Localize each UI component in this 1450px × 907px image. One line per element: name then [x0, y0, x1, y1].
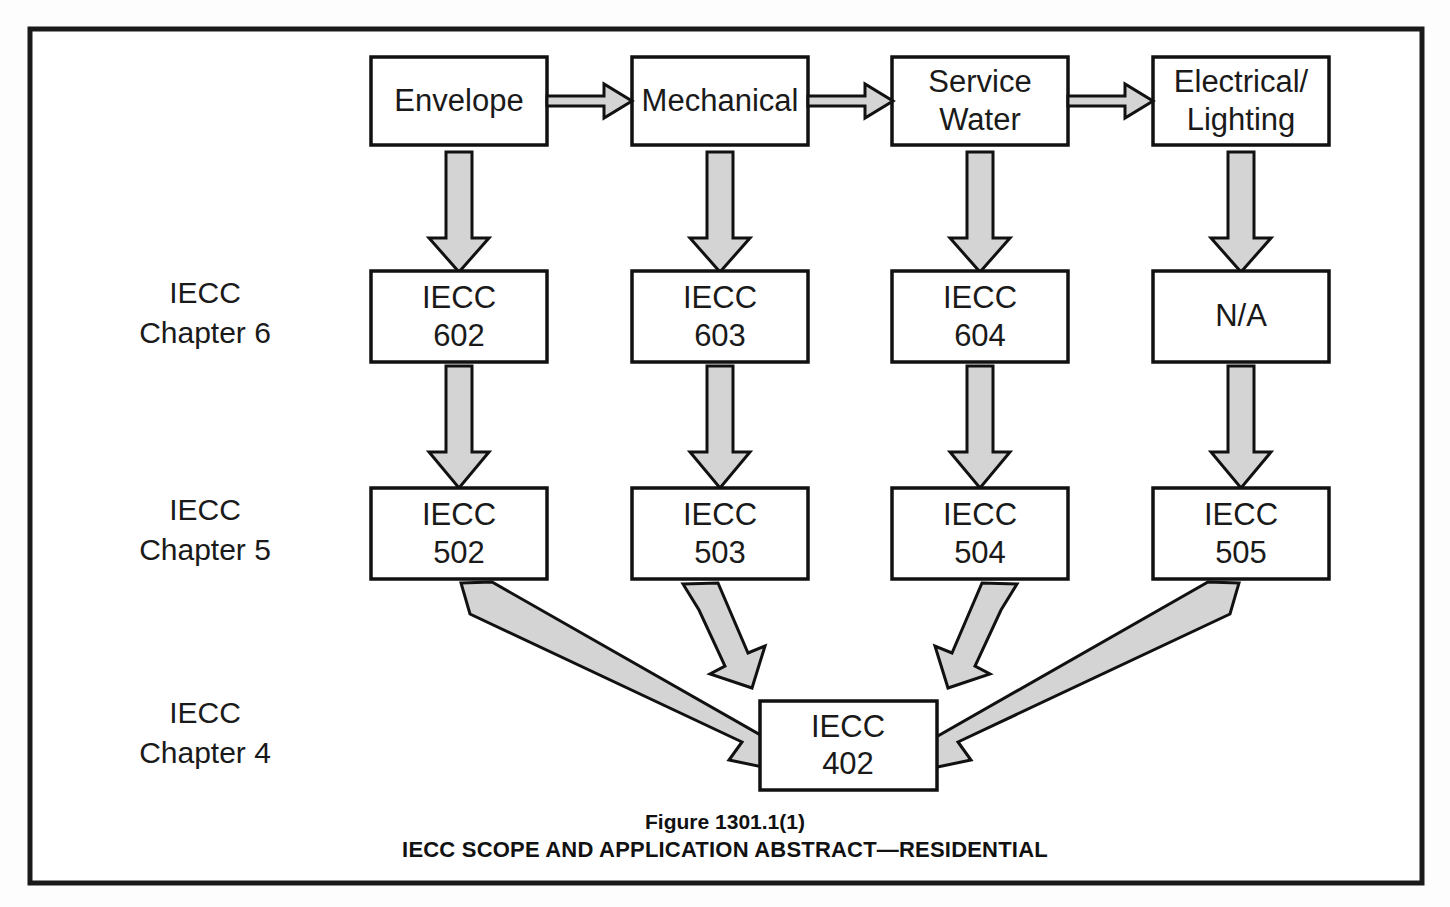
figure-caption-number: Figure 1301.1(1): [645, 810, 805, 833]
node-iecc-603-label-line1: IECC: [683, 280, 757, 315]
node-service-water-label-line2: Water: [939, 102, 1021, 137]
node-iecc-502-label-line1: IECC: [422, 497, 496, 532]
node-na[interactable]: N/A: [1153, 271, 1329, 362]
node-iecc-602[interactable]: IECC 602: [371, 271, 547, 362]
row-label-chapter-5-line2: Chapter 5: [139, 533, 271, 566]
row-label-chapter-4-line2: Chapter 4: [139, 736, 271, 769]
node-iecc-603[interactable]: IECC 603: [632, 271, 808, 362]
node-iecc-504[interactable]: IECC 504: [892, 488, 1068, 579]
node-iecc-503-label-line1: IECC: [683, 497, 757, 532]
row-label-chapter-5-line1: IECC: [169, 493, 241, 526]
node-envelope[interactable]: Envelope: [371, 57, 547, 145]
node-iecc-402-label-line2: 402: [822, 746, 874, 781]
node-na-label: N/A: [1215, 298, 1267, 333]
node-iecc-602-label-line1: IECC: [422, 280, 496, 315]
node-iecc-604-label-line2: 604: [954, 318, 1006, 353]
node-electrical-lighting[interactable]: Electrical/ Lighting: [1153, 57, 1329, 145]
row-label-chapter-6-line1: IECC: [169, 276, 241, 309]
node-iecc-504-label-line2: 504: [954, 535, 1006, 570]
figure-container: Envelope Mechanical Service Water Electr…: [0, 0, 1450, 907]
node-iecc-505-label-line2: 505: [1215, 535, 1267, 570]
node-iecc-503[interactable]: IECC 503: [632, 488, 808, 579]
node-iecc-505-label-line1: IECC: [1204, 497, 1278, 532]
iecc-scope-diagram: Envelope Mechanical Service Water Electr…: [0, 0, 1450, 907]
row-label-chapter-4-line1: IECC: [169, 696, 241, 729]
node-service-water-label-line1: Service: [928, 64, 1031, 99]
node-iecc-505[interactable]: IECC 505: [1153, 488, 1329, 579]
node-iecc-603-label-line2: 603: [694, 318, 746, 353]
node-iecc-602-label-line2: 602: [433, 318, 485, 353]
node-electrical-lighting-label-line1: Electrical/: [1174, 64, 1309, 99]
node-iecc-503-label-line2: 503: [694, 535, 746, 570]
node-mechanical-label: Mechanical: [642, 83, 799, 118]
node-iecc-504-label-line1: IECC: [943, 497, 1017, 532]
node-electrical-lighting-label-line2: Lighting: [1187, 102, 1296, 137]
node-iecc-402-label-line1: IECC: [811, 709, 885, 744]
node-iecc-604-label-line1: IECC: [943, 280, 1017, 315]
node-iecc-502-label-line2: 502: [433, 535, 485, 570]
node-envelope-label: Envelope: [394, 83, 523, 118]
figure-caption-title: IECC SCOPE AND APPLICATION ABSTRACT—RESI…: [402, 837, 1048, 862]
node-iecc-604[interactable]: IECC 604: [892, 271, 1068, 362]
node-iecc-402[interactable]: IECC 402: [760, 701, 937, 790]
node-service-water[interactable]: Service Water: [892, 57, 1068, 145]
node-mechanical[interactable]: Mechanical: [632, 57, 808, 145]
row-label-chapter-6-line2: Chapter 6: [139, 316, 271, 349]
node-iecc-502[interactable]: IECC 502: [371, 488, 547, 579]
